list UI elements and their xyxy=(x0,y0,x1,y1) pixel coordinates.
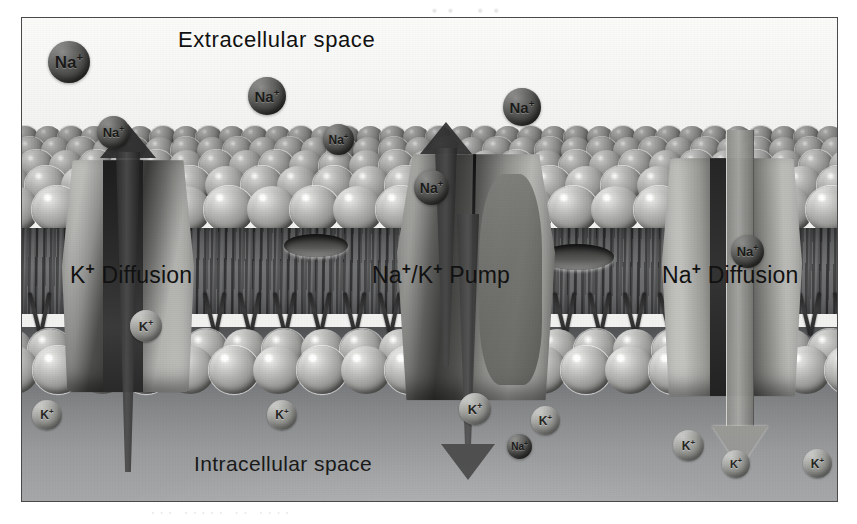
showthrough-text-bottom: ··· ····· ·· ···· xyxy=(150,504,293,524)
potassium-ion: K+ xyxy=(32,400,62,430)
sodium-influx-arrow-down xyxy=(712,130,768,468)
sodium-ion: Na+ xyxy=(97,116,130,149)
ion-label: Na+ xyxy=(255,89,280,104)
phospholipid-head xyxy=(605,346,655,394)
ion-label: K+ xyxy=(539,415,552,427)
ion-label: Na+ xyxy=(511,442,528,452)
sodium-ion: Na+ xyxy=(503,88,541,126)
phospholipid-head xyxy=(561,346,611,394)
sodium-ion: Na+ xyxy=(323,124,354,155)
ion-label: K+ xyxy=(275,409,288,421)
sodium-ion: Na+ xyxy=(48,41,90,83)
phospholipid-head xyxy=(341,346,391,394)
potassium-ion: K+ xyxy=(531,406,560,435)
pump-potassium-import-arrow-down xyxy=(440,214,496,480)
potassium-ion: K+ xyxy=(722,450,750,478)
potassium-ion: K+ xyxy=(267,400,297,430)
potassium-ion: K+ xyxy=(130,310,162,342)
ion-label: Na+ xyxy=(55,54,83,71)
na-diffusion-label: Na+ Diffusion xyxy=(662,262,799,289)
label-text: Extracellular space xyxy=(178,27,375,52)
potassium-ion: K+ xyxy=(803,449,832,478)
ion-label: K+ xyxy=(139,320,153,333)
ion-label: K+ xyxy=(468,403,482,416)
potassium-ion: K+ xyxy=(459,393,491,425)
ion-label: Na+ xyxy=(329,134,349,146)
arrow-head xyxy=(441,444,495,480)
intracellular-space-label: Intracellular space xyxy=(194,452,372,476)
phospholipid-head xyxy=(253,346,303,394)
ion-label: Na+ xyxy=(103,126,125,139)
phospholipid-head xyxy=(209,346,259,394)
extracellular-space-label: Extracellular space xyxy=(178,27,375,53)
sodium-ion: Na+ xyxy=(414,170,449,205)
ion-label: Na+ xyxy=(420,181,443,195)
na-k-pump-label: Na+/K+ Pump xyxy=(372,262,510,289)
cell-membrane-diagram: Na+Na+Na+Na+Na+Na+Na+K+K+K+K+K+K+K+K+Na+… xyxy=(21,17,838,502)
potassium-ion: K+ xyxy=(673,430,704,461)
phospholipid-head xyxy=(806,186,838,233)
k-diffusion-label: K+ Diffusion xyxy=(70,262,192,289)
ion-label: K+ xyxy=(682,440,695,452)
ion-label: Na+ xyxy=(510,100,535,115)
label-text: Intracellular space xyxy=(194,452,372,475)
ion-label: K+ xyxy=(730,459,742,470)
ion-label: K+ xyxy=(40,409,53,421)
potassium-efflux-arrow-up xyxy=(100,124,156,472)
sodium-ion: Na+ xyxy=(248,77,286,115)
ion-label: K+ xyxy=(811,458,824,470)
phospholipid-head xyxy=(825,346,838,394)
phospholipid-head xyxy=(297,346,347,394)
ion-label: Na+ xyxy=(737,245,759,258)
sodium-ion: Na+ xyxy=(507,434,532,459)
